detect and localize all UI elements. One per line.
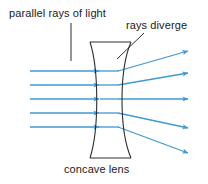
incident-rays-group <box>30 71 99 127</box>
lens-right-surface <box>122 42 131 158</box>
rays-diverge-label: rays diverge <box>126 19 187 31</box>
refracted-ray-2 <box>118 73 188 85</box>
concave-lens-shape <box>90 42 131 158</box>
refracted-ray-5 <box>118 127 188 153</box>
refracted-ray-4 <box>118 113 188 128</box>
refracted-ray-1 <box>118 51 188 71</box>
concave-lens-label: concave lens <box>64 163 129 175</box>
refracted-rays-group <box>118 51 188 153</box>
parallel-rays-label: parallel rays of light <box>9 7 106 19</box>
lens-left-surface <box>90 42 97 158</box>
rays-diverge-leader-line <box>117 33 144 59</box>
concave-lens-diagram: parallel rays of light rays diverge conc… <box>0 0 208 184</box>
internal-rays-group <box>98 71 119 127</box>
